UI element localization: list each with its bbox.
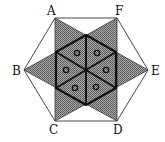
vertex-label-c: C <box>49 123 58 137</box>
vertex-label-f: F <box>115 4 123 18</box>
vertex-label-e: E <box>151 64 160 78</box>
vertex-label-b: B <box>12 64 21 78</box>
vertex-label-d: D <box>113 123 123 137</box>
vertex-label-a: A <box>46 4 56 18</box>
hexagon-diagram: A F B E C D <box>0 0 165 142</box>
